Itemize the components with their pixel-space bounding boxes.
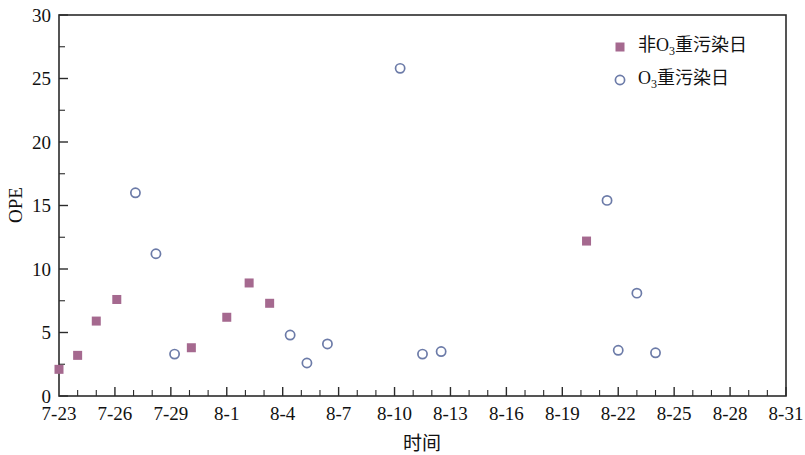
x-tick-label: 8-16 — [489, 403, 524, 424]
data-point-square — [187, 343, 196, 352]
y-tick-label: 25 — [32, 68, 51, 89]
data-point-square — [222, 313, 231, 322]
legend-label: 非O3重污染日 — [638, 35, 747, 58]
y-axis-tick-labels: 051015202530 — [32, 5, 51, 407]
x-tick-label: 8-10 — [377, 403, 412, 424]
data-point-square — [265, 299, 274, 308]
x-tick-label: 8-4 — [270, 403, 296, 424]
x-axis-tick-labels: 7-237-267-298-18-48-78-108-138-168-198-2… — [42, 403, 804, 424]
y-tick-label: 15 — [32, 195, 51, 216]
y-tick-label: 5 — [42, 322, 52, 343]
x-tick-label: 7-26 — [98, 403, 133, 424]
data-point-square — [73, 351, 82, 360]
x-tick-label: 7-23 — [42, 403, 77, 424]
x-tick-label: 8-31 — [769, 403, 804, 424]
y-tick-label: 10 — [32, 259, 51, 280]
y-axis-title: OPE — [5, 187, 26, 223]
x-tick-label: 8-25 — [657, 403, 692, 424]
data-point-square — [245, 278, 254, 287]
x-tick-label: 8-13 — [433, 403, 468, 424]
data-point-square — [112, 295, 121, 304]
x-tick-label: 8-28 — [713, 403, 748, 424]
x-tick-label: 8-22 — [601, 403, 636, 424]
scatter-plot: 051015202530 7-237-267-298-18-48-78-108-… — [0, 0, 805, 455]
y-tick-label: 30 — [32, 5, 51, 26]
data-point-square — [55, 365, 64, 374]
data-point-square — [582, 237, 591, 246]
x-tick-label: 8-7 — [326, 403, 351, 424]
y-tick-label: 20 — [32, 132, 51, 153]
x-tick-label: 8-19 — [545, 403, 580, 424]
x-tick-label: 7-29 — [153, 403, 188, 424]
legend-marker-square — [616, 43, 625, 52]
x-axis-title: 时间 — [403, 433, 441, 454]
chart-figure: 051015202530 7-237-267-298-18-48-78-108-… — [0, 0, 805, 455]
x-tick-label: 8-1 — [214, 403, 239, 424]
data-point-square — [92, 317, 101, 326]
